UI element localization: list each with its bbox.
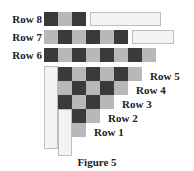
dark-cell [72,81,86,95]
light-cell [100,95,114,109]
dark-cell [72,12,86,26]
row-2-label: Row 2 [108,111,138,125]
light-cell [86,109,100,123]
dark-cell [86,95,100,109]
blank-bar [132,30,174,44]
light-cell [114,48,128,62]
light-cell [58,81,72,95]
dark-cell [58,67,72,81]
row-6-label: Row 6 [0,48,42,62]
dark-cell [100,81,114,95]
light-cell [100,30,114,44]
row-3-label: Row 3 [122,97,152,111]
dark-cell [58,30,72,44]
blank-strip-left [44,66,58,149]
blank-strip-right [58,109,72,156]
dark-cell [44,12,58,26]
row-4-label: Row 4 [136,83,166,97]
dark-cell [58,95,72,109]
light-cell [100,67,114,81]
light-cell [86,81,100,95]
light-cell [128,67,142,81]
light-cell [72,30,86,44]
light-cell [114,81,128,95]
dark-cell [128,48,142,62]
light-cell [72,95,86,109]
row-1-label: Row 1 [94,125,124,139]
light-cell [58,48,72,62]
row-7-label: Row 7 [0,30,42,44]
light-cell [44,30,58,44]
dark-cell [72,109,86,123]
light-cell [72,123,86,137]
figure-caption: Figure 5 [0,156,194,168]
light-cell [86,48,100,62]
row-8-label: Row 8 [0,12,42,26]
blank-bar [90,12,161,26]
row-5-label: Row 5 [150,69,180,83]
dark-cell [72,48,86,62]
dark-cell [100,48,114,62]
dark-cell [86,30,100,44]
dark-cell [114,67,128,81]
light-cell [142,48,156,62]
light-cell [58,12,72,26]
light-cell [72,67,86,81]
dark-cell [44,48,58,62]
dark-cell [86,67,100,81]
dark-cell [114,30,128,44]
